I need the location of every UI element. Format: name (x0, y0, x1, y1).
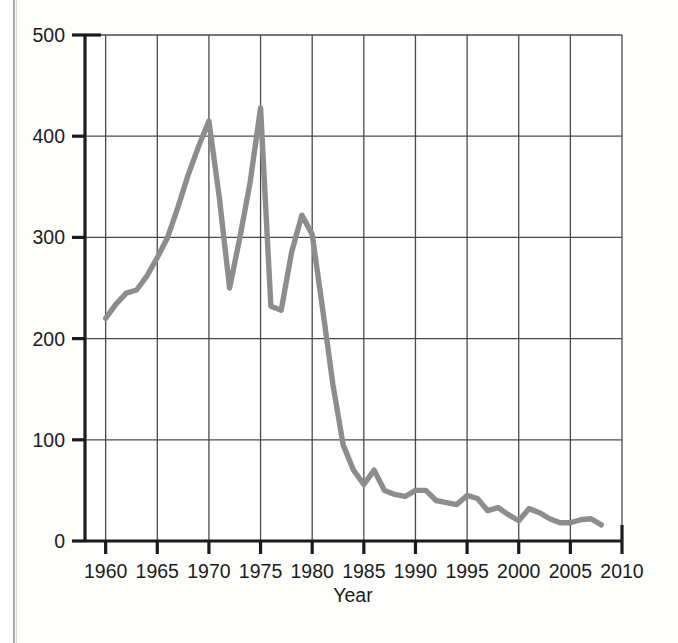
x-tick-label: 2005 (549, 560, 593, 582)
y-axis-ticks (72, 35, 85, 541)
x-axis-tick-labels: 1960196519701975198019851990199520002005… (84, 560, 644, 582)
y-tick-label: 300 (32, 226, 65, 248)
x-axis-title: Year (333, 584, 373, 606)
x-tick-label: 1965 (136, 560, 180, 582)
x-tick-label: 2010 (600, 560, 644, 582)
figure-page: 0100200300400500 19601965197019751980198… (0, 0, 678, 643)
x-axis-ticks (106, 541, 622, 554)
y-tick-label: 400 (32, 125, 65, 147)
x-tick-label: 1970 (187, 560, 231, 582)
x-tick-label: 1980 (290, 560, 334, 582)
x-tick-label: 1985 (342, 560, 386, 582)
y-tick-label: 0 (54, 530, 65, 552)
line-chart: 0100200300400500 19601965197019751980198… (0, 0, 678, 643)
y-axis-tick-labels: 0100200300400500 (32, 24, 65, 552)
x-tick-label: 1960 (84, 560, 128, 582)
y-tick-label: 200 (32, 328, 65, 350)
y-tick-label: 100 (32, 429, 65, 451)
x-tick-label: 1990 (394, 560, 438, 582)
x-tick-label: 1975 (239, 560, 283, 582)
x-tick-label: 2000 (497, 560, 541, 582)
y-tick-label: 500 (32, 24, 65, 46)
x-tick-label: 1995 (445, 560, 489, 582)
